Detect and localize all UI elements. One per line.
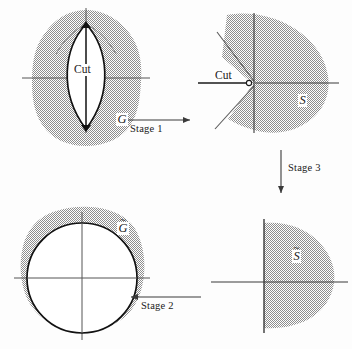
- tilde-accent-s: ~: [294, 242, 300, 253]
- stage-2-label: Stage 2: [141, 301, 174, 312]
- stage-1-label: Stage 1: [130, 124, 163, 135]
- domain-stilde-shade: [264, 223, 334, 329]
- region-label-s: S: [298, 94, 307, 107]
- g-tilde-group: ~ G: [119, 222, 128, 235]
- region-label-g: G: [116, 113, 128, 126]
- stage-transformation-figure: Cut G Cut S ~ G ~ S Stage 1 Stage 3 Stag…: [0, 0, 352, 349]
- s-vertex-marker: [246, 80, 251, 85]
- cut-label-g: Cut: [73, 64, 92, 76]
- tilde-accent-g: ~: [120, 214, 126, 225]
- region-label-s-tilde: ~ S: [292, 250, 301, 263]
- panel-bottom-left: [14, 207, 150, 340]
- s-tilde-group: ~ S: [294, 250, 300, 263]
- domain-s-shade: [222, 14, 329, 133]
- cut-label-s: Cut: [214, 70, 233, 82]
- stage-3-label: Stage 3: [288, 163, 321, 174]
- panel-bottom-right: [211, 219, 348, 333]
- figure-canvas: [0, 0, 352, 349]
- region-label-g-tilde: ~ G: [117, 222, 129, 235]
- arrow-stage-3: [278, 150, 284, 193]
